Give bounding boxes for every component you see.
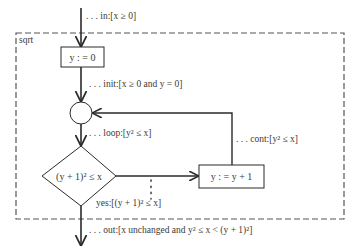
in-annotation: . . . in:[x ≥ 0] [86, 11, 136, 21]
decision-label: (y + 1)² ≤ x [56, 171, 102, 183]
feedback-arrow [93, 113, 232, 165]
init-annotation: . . . init:[x ≥ 0 and y = 0] [89, 79, 182, 89]
increment-box-label: y : = y + 1 [211, 171, 253, 182]
region-label: sqrt [19, 35, 34, 45]
out-annotation: . . . out:[x unchanged and y² ≤ x < (y +… [89, 225, 252, 236]
yes-annotation: yes:[(y + 1)² ≤ x] [96, 198, 161, 209]
cont-annotation: . . . cont:[y² ≤ x] [236, 134, 298, 144]
junction-circle [70, 102, 92, 124]
flowchart: sqrt . . . in:[x ≥ 0] y : = 0 . . . init… [0, 0, 357, 248]
sqrt-region-border [16, 33, 344, 219]
loop-annotation: . . . loop:[y² ≤ x] [89, 128, 151, 138]
init-box-label: y : = 0 [70, 52, 96, 63]
